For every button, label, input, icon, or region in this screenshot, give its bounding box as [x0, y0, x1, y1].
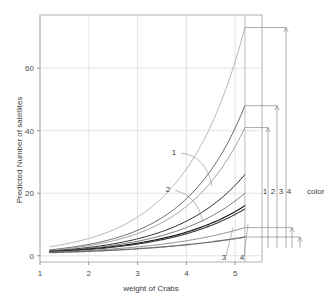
y-tick-label: 20 [25, 189, 34, 198]
x-tick-label: 1 [38, 269, 43, 278]
y-tick-label: 60 [25, 64, 34, 73]
x-tick-label: 2 [87, 269, 92, 278]
curve-annotation-label: 3 [222, 253, 227, 262]
legend-title: color [307, 187, 325, 196]
x-tick-label: 4 [184, 269, 189, 278]
x-tick-label: 3 [135, 269, 140, 278]
legend-entry-3: 3 [279, 187, 284, 196]
y-tick-label: 40 [25, 127, 34, 136]
chart-background [0, 0, 325, 303]
chart-container: 0204060 12345 1234 1234color weight of C… [0, 0, 325, 303]
legend-entry-4: 4 [287, 187, 292, 196]
x-tick-label: 5 [233, 269, 238, 278]
curve-annotation-label: 2 [166, 185, 171, 194]
predicted-satellites-chart: 0204060 12345 1234 1234color weight of C… [0, 0, 325, 303]
legend-entry-1: 1 [263, 187, 268, 196]
y-tick-label: 0 [30, 252, 35, 261]
legend-entry-2: 2 [271, 187, 276, 196]
y-axis-title: Predicted Number of satellites [15, 97, 24, 204]
curve-annotation-label: 4 [240, 253, 245, 262]
curve-annotation-label: 1 [172, 148, 177, 157]
x-axis-title: weight of Crabs [122, 284, 179, 293]
